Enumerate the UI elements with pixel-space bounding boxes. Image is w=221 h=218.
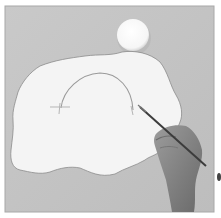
photograph xyxy=(0,0,221,218)
edge-mark xyxy=(217,173,221,181)
white-disc xyxy=(117,19,149,51)
photo-scene xyxy=(0,0,221,218)
